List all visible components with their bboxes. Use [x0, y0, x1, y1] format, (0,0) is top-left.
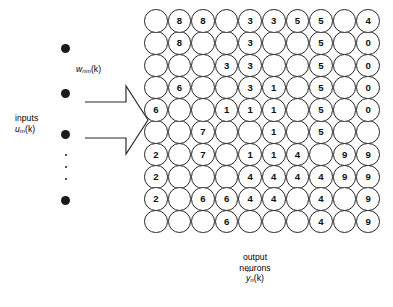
neuron-cell	[168, 98, 192, 122]
neuron-cell	[215, 31, 239, 55]
neuron-cell: 5	[309, 31, 333, 55]
neuron-cell: 4	[309, 165, 333, 189]
neuron-cell: 9	[356, 187, 380, 211]
neuron-cell: 4	[286, 165, 310, 189]
neuron-cell	[333, 120, 357, 144]
neuron-cell: 2	[144, 165, 168, 189]
neuron-cell: 4	[286, 143, 310, 167]
neuron-cell	[191, 76, 215, 100]
neuron-cell: 4	[262, 165, 286, 189]
neuron-cell: 3	[262, 9, 286, 33]
neuron-cell	[144, 76, 168, 100]
som-figure: inputs um(k) wnm(k) 88335548350335063150…	[0, 0, 393, 307]
neuron-cell	[238, 120, 262, 144]
neuron-cell	[191, 210, 215, 234]
inputs-label-line1: inputs	[15, 113, 38, 124]
neuron-cell	[356, 120, 380, 144]
neuron-cell: 4	[238, 187, 262, 211]
neuron-cell	[286, 98, 310, 122]
neuron-cell	[238, 210, 262, 234]
neuron-cell	[333, 210, 357, 234]
neuron-cell	[168, 120, 192, 144]
output-label-line2: neurons	[213, 263, 297, 274]
neuron-cell	[262, 54, 286, 78]
neuron-cell	[309, 143, 333, 167]
neuron-cell: 9	[356, 143, 380, 167]
neuron-cell	[144, 120, 168, 144]
neuron-cell: 9	[333, 165, 357, 189]
neuron-cell: 6	[215, 210, 239, 234]
neuron-cell	[286, 210, 310, 234]
neuron-cell: 1	[262, 120, 286, 144]
neuron-cell	[333, 31, 357, 55]
neuron-cell: 1	[262, 143, 286, 167]
output-label: output neurons ^yn(k)	[213, 252, 297, 286]
neuron-cell: 0	[356, 54, 380, 78]
vertical-ellipsis-dot	[65, 166, 67, 168]
neuron-cell	[144, 210, 168, 234]
neuron-cell	[168, 187, 192, 211]
neuron-cell	[286, 54, 310, 78]
neuron-cell	[286, 120, 310, 144]
weights-sub: nm	[82, 67, 91, 74]
neuron-cell	[191, 54, 215, 78]
input-dot	[61, 130, 70, 139]
neuron-cell: 3	[238, 76, 262, 100]
vertical-ellipsis-dot	[65, 178, 67, 180]
neuron-cell: 5	[309, 98, 333, 122]
output-neuron-grid: 8833554835033506315061115071527114992444…	[144, 9, 380, 232]
neuron-cell: 6	[168, 76, 192, 100]
neuron-cell: 4	[262, 187, 286, 211]
neuron-cell	[286, 31, 310, 55]
neuron-cell	[333, 54, 357, 78]
neuron-cell	[262, 31, 286, 55]
vertical-ellipsis-dot	[65, 154, 67, 156]
neuron-cell: 3	[238, 31, 262, 55]
input-dot	[61, 89, 70, 98]
neuron-cell	[168, 165, 192, 189]
neuron-cell	[333, 187, 357, 211]
neuron-cell: 6	[144, 98, 168, 122]
neuron-cell: 2	[144, 143, 168, 167]
neuron-cell	[333, 98, 357, 122]
neuron-cell: 6	[215, 187, 239, 211]
neuron-cell: 0	[356, 31, 380, 55]
neuron-cell	[168, 54, 192, 78]
neuron-cell: 7	[191, 120, 215, 144]
neuron-cell: 4	[309, 210, 333, 234]
neuron-cell: 9	[356, 165, 380, 189]
neuron-cell	[286, 76, 310, 100]
neuron-cell: 9	[333, 143, 357, 167]
output-label-line1: output	[213, 252, 297, 263]
neuron-cell: 3	[215, 54, 239, 78]
neuron-cell: 8	[168, 31, 192, 55]
neuron-cell: 7	[191, 143, 215, 167]
neuron-cell: 0	[356, 98, 380, 122]
neuron-cell	[191, 98, 215, 122]
neuron-cell: 5	[309, 54, 333, 78]
inputs-label: inputs um(k)	[15, 113, 38, 136]
hat-accent: ^	[246, 268, 250, 275]
neuron-cell: 0	[356, 76, 380, 100]
input-dot	[61, 196, 70, 205]
neuron-cell	[333, 9, 357, 33]
neuron-cell	[333, 76, 357, 100]
block-arrow-icon	[84, 84, 150, 156]
neuron-cell: 1	[215, 98, 239, 122]
neuron-cell: 3	[238, 9, 262, 33]
neuron-cell: 6	[191, 187, 215, 211]
neuron-cell: 1	[238, 143, 262, 167]
neuron-cell	[215, 76, 239, 100]
neuron-cell	[215, 143, 239, 167]
neuron-cell	[168, 210, 192, 234]
neuron-cell: 5	[309, 76, 333, 100]
weights-arg: (k)	[91, 64, 101, 74]
neuron-cell	[215, 120, 239, 144]
neuron-cell: 4	[309, 187, 333, 211]
neuron-cell	[215, 165, 239, 189]
neuron-cell	[262, 210, 286, 234]
neuron-cell: 4	[238, 165, 262, 189]
neuron-cell	[286, 187, 310, 211]
neuron-cell: 9	[356, 210, 380, 234]
neuron-cell	[144, 9, 168, 33]
